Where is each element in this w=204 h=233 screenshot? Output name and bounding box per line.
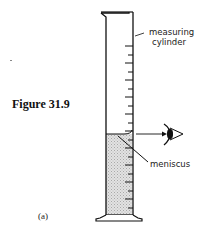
meniscus-label: meniscus [150, 159, 190, 169]
cylinder-label-line2: cylinder [152, 37, 186, 47]
eye-icon [164, 124, 183, 145]
cylinder-base [96, 215, 142, 221]
part-label: (a) [38, 211, 48, 221]
cylinder-leader-line [135, 33, 144, 36]
cylinder-label-line1: measuring [149, 27, 194, 37]
figure-canvas: Figure 31.9 [0, 0, 204, 233]
sight-arrowhead [162, 132, 167, 137]
